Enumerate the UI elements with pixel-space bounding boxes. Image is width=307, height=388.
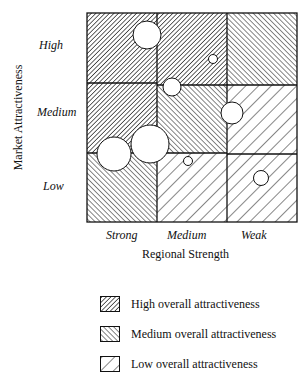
bubble <box>163 78 181 96</box>
bubble <box>221 102 243 124</box>
legend-item-medium: Medium overall attractiveness <box>131 325 276 343</box>
matrix-grid <box>87 13 297 222</box>
bubble <box>184 157 193 166</box>
cell-high-weak <box>227 13 297 85</box>
legend-item-high: High overall attractiveness <box>131 295 260 313</box>
bubble <box>209 55 218 64</box>
bubble <box>133 21 161 49</box>
x-tick-strong: Strong <box>106 228 138 243</box>
legend-item-low: Low overall attractiveness <box>131 355 258 373</box>
legend-label: Medium overall attractiveness <box>131 327 276 342</box>
x-axis-title: Regional Strength <box>142 247 229 262</box>
cell-low-weak <box>227 154 297 222</box>
x-tick-weak: Weak <box>241 228 267 243</box>
y-tick-high: High <box>39 38 63 53</box>
bubble <box>97 137 131 171</box>
y-tick-low: Low <box>43 179 64 194</box>
legend-swatch-medium <box>101 327 120 342</box>
legend-label: High overall attractiveness <box>131 297 260 312</box>
legend-label: Low overall attractiveness <box>131 357 258 372</box>
bubble <box>131 125 169 163</box>
bubble <box>254 171 269 186</box>
cell-high-medium <box>157 13 227 85</box>
x-tick-medium: Medium <box>167 228 206 243</box>
legend-swatch-low <box>101 357 120 372</box>
legend-swatches <box>101 297 120 372</box>
y-tick-medium: Medium <box>37 105 76 120</box>
legend-swatch-high <box>101 297 120 312</box>
y-axis-title: Market Attractiveness <box>11 53 26 183</box>
